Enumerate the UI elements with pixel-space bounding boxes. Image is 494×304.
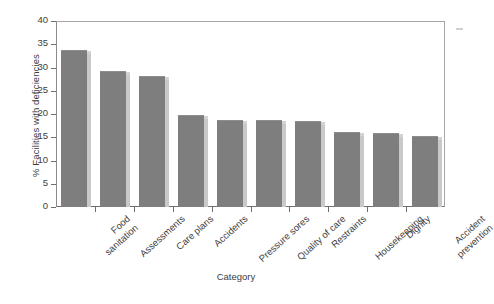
x-tick-mark (212, 207, 213, 212)
bar (295, 122, 325, 207)
y-tick-label: 0 (2, 200, 48, 211)
y-tick-label: 40 (2, 14, 48, 25)
bar-fill (178, 115, 204, 207)
bar (100, 72, 130, 207)
bar-highlight-edge (243, 124, 247, 207)
bar-highlight-edge (399, 137, 403, 207)
x-tick-mark (95, 207, 96, 212)
bar (178, 116, 208, 207)
scan-artifact (456, 28, 463, 30)
y-tick-label: 35 (2, 37, 48, 48)
y-tick-label-wrap: 0 (2, 200, 62, 211)
y-tick-label: 20 (2, 107, 48, 118)
bar-highlight-edge (165, 80, 169, 207)
bar-highlight-top (165, 77, 169, 80)
x-tick-label: Assessments (138, 213, 188, 259)
x-tick-mark (251, 207, 252, 212)
x-tick-mark (406, 207, 407, 212)
bar (217, 121, 247, 207)
bar-highlight-edge (204, 119, 208, 207)
y-tick-label-wrap: 25 (2, 84, 62, 95)
x-tick-mark (328, 207, 329, 212)
y-tick-label-wrap: 40 (2, 14, 62, 25)
bar-highlight-top (438, 137, 442, 140)
x-tick-mark (289, 207, 290, 212)
y-tick-label-wrap: 30 (2, 61, 62, 72)
bar-fill (100, 71, 126, 207)
x-tick-label-line: Accidents (212, 213, 250, 249)
x-tick-label: Foodsanitation (95, 213, 141, 257)
bar-fill (412, 136, 438, 207)
bar-highlight-edge (282, 124, 286, 207)
bar-highlight-top (204, 116, 208, 119)
y-tick-label: 25 (2, 84, 48, 95)
bar-fill (373, 133, 399, 207)
bar-highlight-top (126, 72, 130, 75)
bar-fill (61, 50, 87, 207)
bar-highlight-edge (360, 136, 364, 207)
bar-fill (139, 76, 165, 207)
y-tick-label: 5 (2, 177, 48, 188)
bar-highlight-edge (321, 125, 325, 207)
bar-highlight-top (282, 121, 286, 124)
x-tick-label: Accidentprevention (446, 213, 494, 260)
bar-highlight-top (399, 134, 403, 137)
y-tick-label: 15 (2, 130, 48, 141)
bar-highlight-top (243, 121, 247, 124)
x-tick-mark (134, 207, 135, 212)
bar (256, 121, 286, 207)
bar-highlight-top (360, 133, 364, 136)
bar (139, 77, 169, 207)
bar-highlight-top (321, 122, 325, 125)
bar (412, 137, 442, 207)
y-tick-label-wrap: 15 (2, 130, 62, 141)
bar (61, 51, 91, 207)
bar-fill (295, 121, 321, 207)
y-tick-label: 10 (2, 154, 48, 165)
x-axis-title: Category (196, 271, 276, 282)
bar-highlight-edge (126, 75, 130, 207)
bar-fill (334, 132, 360, 207)
y-tick-label-wrap: 20 (2, 107, 62, 118)
y-tick-label-wrap: 35 (2, 37, 62, 48)
y-tick-label: 30 (2, 61, 48, 72)
bar (373, 134, 403, 207)
y-tick-label-wrap: 10 (2, 154, 62, 165)
x-tick-mark (173, 207, 174, 212)
y-tick-label-wrap: 5 (2, 177, 62, 188)
x-tick-mark (367, 207, 368, 212)
x-tick-label-line: Assessments (138, 213, 188, 259)
bar (334, 133, 364, 207)
bar-highlight-edge (87, 54, 91, 207)
bar-fill (256, 120, 282, 207)
bar-highlight-edge (438, 140, 442, 207)
bar-highlight-top (87, 51, 91, 54)
bar-fill (217, 120, 243, 207)
x-tick-label: Accidents (212, 213, 250, 249)
